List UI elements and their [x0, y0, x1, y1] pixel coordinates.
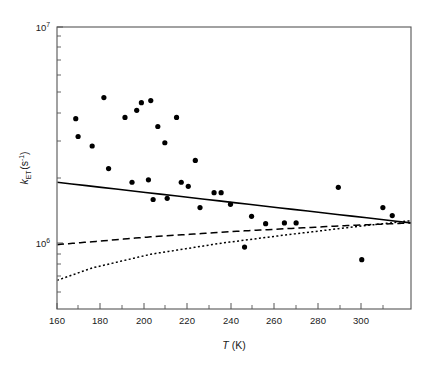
y-tick-label-top: 107	[36, 21, 51, 33]
data-point	[162, 140, 167, 145]
data-point	[146, 177, 151, 182]
data-point	[139, 100, 144, 105]
scatter-plot-svg: 160 180 200 220 240 260 280 300 T(K)	[0, 0, 428, 368]
y-tick-mantissa: 10	[36, 22, 47, 33]
data-point	[211, 190, 216, 195]
data-point	[249, 214, 254, 219]
data-point	[101, 95, 106, 100]
x-tick-labels: 160 180 200 220 240 260 280 300	[49, 315, 369, 326]
data-point	[134, 108, 139, 113]
solid-fit-curve	[57, 182, 411, 223]
y-tick-labels: 107 106	[36, 21, 51, 249]
y-axis-ticks	[57, 27, 63, 292]
y-axis-subscript: ET	[25, 171, 32, 180]
figure-container: 160 180 200 220 240 260 280 300 T(K)	[0, 0, 428, 368]
y-axis-units-open: (s	[18, 161, 30, 170]
data-point	[263, 221, 268, 226]
y-tick-mantissa: 10	[36, 238, 47, 249]
data-point	[197, 205, 202, 210]
data-point	[76, 134, 81, 139]
data-point	[165, 196, 170, 201]
data-point	[155, 124, 160, 129]
data-point	[294, 220, 299, 225]
x-tick-label: 240	[223, 315, 239, 326]
fit-curves	[57, 182, 411, 280]
x-tick-label: 220	[179, 315, 195, 326]
data-point	[179, 180, 184, 185]
data-point	[186, 184, 191, 189]
x-tick-label: 200	[136, 315, 152, 326]
data-point	[151, 197, 156, 202]
x-tick-label: 260	[266, 315, 282, 326]
data-point	[242, 244, 247, 249]
y-tick-exponent: 7	[46, 21, 50, 28]
x-axis-title: T(K)	[222, 339, 245, 351]
data-point	[390, 213, 395, 218]
x-tick-label: 160	[49, 315, 65, 326]
data-point	[359, 257, 364, 262]
y-axis-units-close: )	[18, 151, 30, 155]
y-axis-title: kET(s-1)	[18, 151, 32, 184]
data-point	[90, 143, 95, 148]
y-tick-exponent: 6	[46, 237, 50, 244]
data-point	[122, 115, 127, 120]
dotted-fit-curve	[57, 221, 411, 281]
data-point	[106, 166, 111, 171]
x-axis-ticks	[57, 303, 383, 309]
y-tick-label-bottom: 106	[36, 237, 51, 249]
data-point	[129, 180, 134, 185]
data-points-group	[73, 95, 395, 262]
data-point	[193, 158, 198, 163]
data-point	[148, 98, 153, 103]
x-axis-symbol: T	[222, 339, 230, 351]
data-point	[228, 202, 233, 207]
data-point	[282, 220, 287, 225]
x-axis-units: (K)	[232, 339, 246, 351]
x-tick-label: 280	[310, 315, 326, 326]
x-tick-label: 300	[353, 315, 369, 326]
data-point	[336, 185, 341, 190]
data-point	[219, 190, 224, 195]
data-point	[174, 115, 179, 120]
data-point	[73, 116, 78, 121]
x-tick-label: 180	[92, 315, 108, 326]
data-point	[380, 205, 385, 210]
